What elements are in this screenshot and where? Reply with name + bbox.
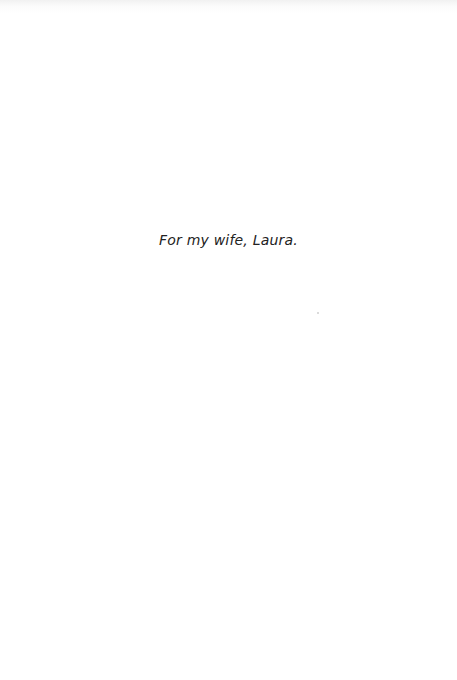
paper-speck (317, 312, 319, 314)
dedication-text: For my wife, Laura. (0, 232, 457, 248)
book-page: For my wife, Laura. (0, 0, 457, 680)
